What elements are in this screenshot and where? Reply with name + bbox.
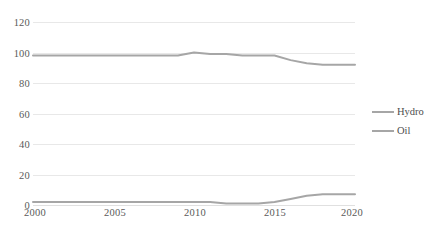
legend-item-hydro[interactable]: Hydro (372, 104, 441, 119)
legend-line-swatch-icon (372, 130, 394, 132)
y-axis-tick-label: 40 (0, 139, 30, 150)
legend-item-oil[interactable]: Oil (372, 123, 441, 138)
series-line-hydro (33, 53, 355, 65)
y-axis-tick-label: 80 (0, 78, 30, 89)
x-axis-labels: 2000 2005 2010 2015 2020 (33, 207, 355, 223)
plot-area (33, 22, 355, 205)
x-axis-tick-label: 2010 (184, 207, 206, 219)
legend-item-label: Oil (397, 125, 410, 137)
y-axis-labels: 120 100 80 60 40 20 0 (0, 0, 30, 241)
x-axis-tick-label: 2000 (24, 207, 46, 219)
y-axis-tick-label: 120 (0, 17, 30, 28)
series-container (33, 22, 355, 205)
x-axis-tick-label: 2015 (264, 207, 286, 219)
y-axis-tick-label: 100 (0, 48, 30, 59)
y-axis-tick-label: 60 (0, 109, 30, 120)
series-line-oil (33, 194, 355, 203)
chart-legend: Hydro Oil (372, 104, 441, 142)
x-axis-tick-label: 2005 (104, 207, 126, 219)
x-axis-tick-label: 2020 (341, 207, 363, 219)
legend-line-swatch-icon (372, 111, 394, 113)
y-axis-tick-label: 20 (0, 170, 30, 181)
x-axis-line (33, 205, 355, 206)
legend-item-label: Hydro (397, 106, 424, 118)
line-chart: 120 100 80 60 40 20 0 2000 2005 2010 201… (0, 0, 441, 241)
